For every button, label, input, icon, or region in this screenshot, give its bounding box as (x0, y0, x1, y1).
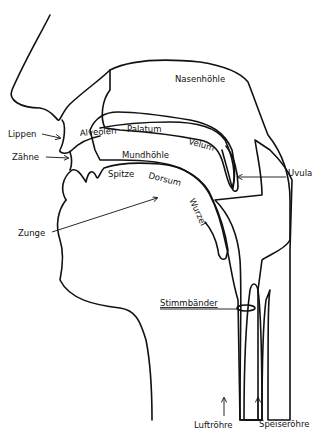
label-nasal-cavity: Nasenhöhle (175, 74, 225, 84)
tongue-arrow (52, 198, 157, 232)
jaw-outline (58, 200, 152, 420)
label-esophagus: Speiseröhre (259, 419, 309, 429)
lips-arrow (42, 134, 60, 138)
label-velum: Velum (187, 136, 215, 152)
label-oral-cavity: Mundhöhle (122, 150, 169, 160)
label-trachea: Luftröhre (194, 420, 233, 430)
pharynx (215, 140, 292, 420)
label-palate: Palatum (127, 124, 162, 134)
teeth-arrow (46, 157, 68, 158)
label-tongue-root: Wurzel (187, 197, 208, 228)
label-alveoli: Alveolen (79, 125, 116, 138)
label-tongue-tip: Spitze (108, 169, 134, 179)
label-tongue: Zunge (18, 228, 45, 238)
label-uvula: Uvula (288, 168, 312, 178)
label-lips: Lippen (8, 129, 37, 139)
nasal-cavity (90, 60, 290, 420)
face-profile (11, 15, 110, 120)
teeth (70, 152, 72, 170)
vocal-tract-diagram: Nasenhöhle Lippen Zähne Alveolen Palatum… (0, 0, 327, 439)
label-teeth: Zähne (12, 152, 39, 162)
label-tongue-dorsum: Dorsum (148, 170, 183, 188)
vocal-folds (237, 305, 255, 311)
label-vocal-folds: Stimmbänder (160, 298, 218, 308)
